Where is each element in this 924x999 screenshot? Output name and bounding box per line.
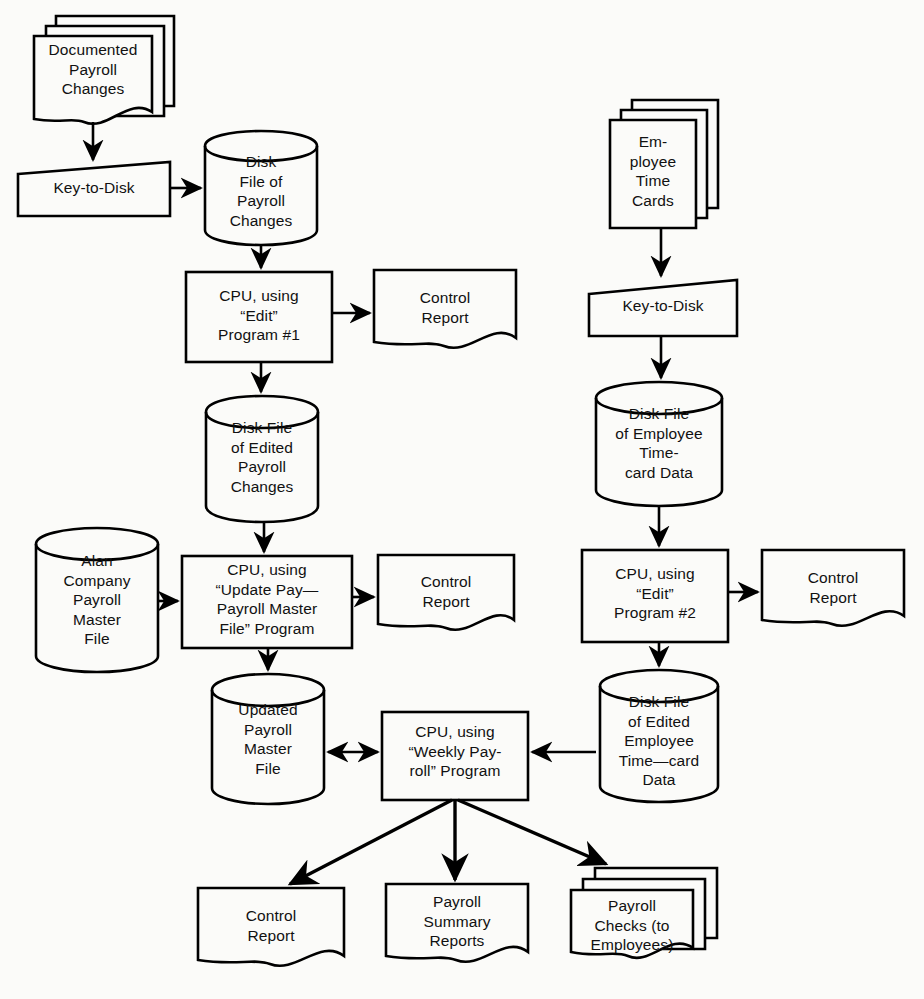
node-disk-file-edited-payroll-changes	[206, 396, 318, 522]
flowchart-svg	[0, 0, 924, 999]
node-cpu-edit-program-1	[186, 272, 332, 362]
node-updated-payroll-master-file	[212, 674, 324, 804]
node-payroll-summary-reports	[386, 884, 528, 962]
node-disk-file-payroll-changes	[205, 131, 317, 245]
node-key-to-disk-1	[18, 162, 170, 216]
node-disk-file-edited-employee-timecard-data	[600, 670, 718, 802]
node-control-report-2	[378, 555, 514, 630]
node-control-report-4	[198, 888, 344, 966]
node-cpu-update-payroll-master-file	[182, 556, 352, 648]
flowchart-canvas: Documented Payroll Changes Key-to-Disk D…	[0, 0, 924, 999]
node-employee-time-cards	[610, 100, 718, 228]
node-payroll-checks-to-employees	[571, 868, 717, 958]
node-cpu-edit-program-2	[582, 550, 728, 642]
node-key-to-disk-2	[589, 280, 737, 336]
node-control-report-1	[374, 270, 516, 348]
node-alan-company-payroll-master-file	[36, 528, 158, 672]
node-documented-payroll-changes	[34, 16, 174, 124]
node-control-report-3	[762, 550, 904, 626]
node-cpu-weekly-payroll-program	[382, 712, 528, 800]
node-disk-file-employee-timecard-data	[596, 382, 722, 506]
